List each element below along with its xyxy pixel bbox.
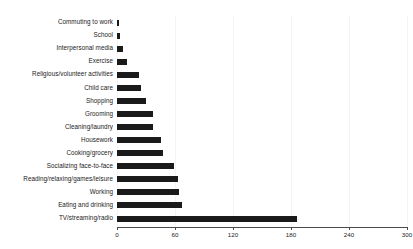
bar-row: Religious/volunteer activities (117, 68, 407, 81)
bar (117, 216, 297, 222)
bar (117, 20, 119, 26)
category-label: Exercise (4, 57, 113, 65)
category-label: Working (4, 188, 113, 196)
category-label: Shopping (4, 97, 113, 105)
x-tick-label: 300 (402, 231, 413, 238)
x-tick-mark (233, 227, 234, 230)
bar-row: Reading/relaxing/games/leisure (117, 173, 407, 186)
bar (117, 124, 153, 130)
category-label: TV/streaming/radio (4, 214, 113, 222)
bar (117, 137, 161, 143)
bar-row: Socializing face-to-face (117, 160, 407, 173)
bar-row: Commuting to work (117, 16, 407, 29)
category-label: Socializing face-to-face (4, 162, 113, 170)
category-label: Child care (4, 84, 113, 92)
x-tick-label: 180 (286, 231, 297, 238)
category-label: School (4, 31, 113, 39)
bar (117, 85, 141, 91)
bar-row: Cooking/grocery (117, 147, 407, 160)
category-label: Religious/volunteer activities (4, 70, 113, 78)
bar-row: Cleaning/laundry (117, 121, 407, 134)
x-tick-label: 240 (344, 231, 355, 238)
category-label: Grooming (4, 110, 113, 118)
bar-row: Housework (117, 134, 407, 147)
bar-row: TV/streaming/radio (117, 212, 407, 225)
x-tick-mark (291, 227, 292, 230)
category-label: Commuting to work (4, 18, 113, 26)
bar (117, 176, 178, 182)
bar (117, 59, 127, 65)
category-label: Reading/relaxing/games/leisure (4, 175, 113, 183)
bar (117, 33, 120, 39)
category-label: Eating and drinking (4, 201, 113, 209)
category-label: Housework (4, 136, 113, 144)
bar-row: Child care (117, 81, 407, 94)
gridline (407, 16, 408, 227)
bar (117, 111, 153, 117)
bar-row: Exercise (117, 55, 407, 68)
category-label: Cleaning/laundry (4, 123, 113, 131)
bar (117, 150, 163, 156)
bar-row: School (117, 29, 407, 42)
x-tick-mark (117, 227, 118, 230)
bar (117, 189, 179, 195)
category-label: Cooking/grocery (4, 149, 113, 157)
category-label: Interpersonal media (4, 44, 113, 52)
bar (117, 72, 139, 78)
bar-row: Shopping (117, 94, 407, 107)
bar (117, 163, 174, 169)
x-tick-mark (407, 227, 408, 230)
bar-chart: Commuting to workSchoolInterpersonal med… (0, 0, 413, 249)
bar (117, 202, 182, 208)
plot-area: Commuting to workSchoolInterpersonal med… (117, 16, 407, 227)
x-tick-label: 60 (171, 231, 178, 238)
x-tick-label: 120 (228, 231, 239, 238)
x-tick-mark (175, 227, 176, 230)
bar-row: Working (117, 186, 407, 199)
bar-row: Eating and drinking (117, 199, 407, 212)
x-tick-label: 0 (115, 231, 119, 238)
x-axis-line (117, 227, 407, 228)
bar (117, 98, 146, 104)
x-tick-mark (349, 227, 350, 230)
bar (117, 46, 123, 52)
bar-row: Grooming (117, 107, 407, 120)
bar-row: Interpersonal media (117, 42, 407, 55)
